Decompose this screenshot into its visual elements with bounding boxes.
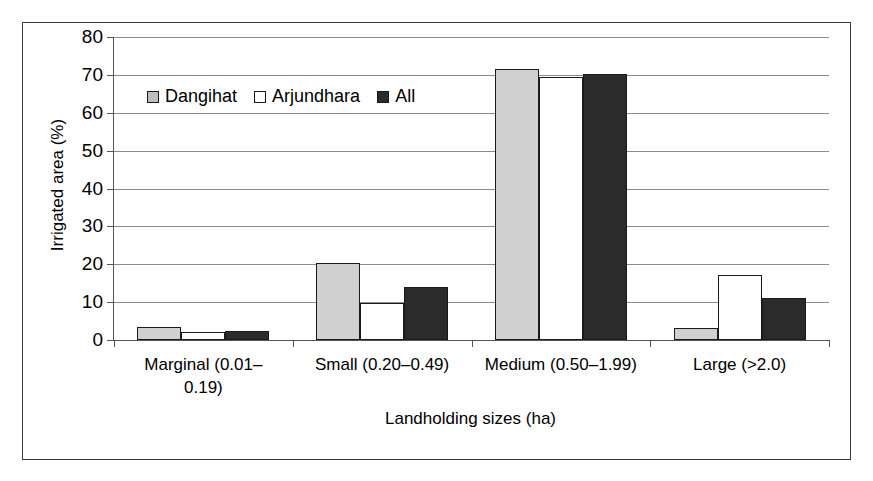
x-axis-category-label: Marginal (0.01–0.19) [114, 353, 293, 399]
bar-dangihat-1 [316, 263, 360, 340]
y-axis-tick-label: 80 [43, 27, 103, 46]
x-axis-category-label: Large (>2.0) [650, 353, 829, 376]
y-axis-tick-label: 20 [43, 254, 103, 273]
y-axis-tick [107, 302, 114, 303]
y-axis-tick-label: 30 [43, 216, 103, 235]
legend-label-all: All [395, 86, 415, 107]
gridline [114, 75, 829, 76]
y-axis-tick [107, 264, 114, 265]
y-axis-tick-label: 60 [43, 103, 103, 122]
y-axis-tick [107, 75, 114, 76]
y-axis-tick-label: 0 [43, 330, 103, 349]
x-axis-category-label: Medium (0.50–1.99) [472, 353, 651, 376]
bar-arjundhara-2 [539, 77, 583, 340]
legend-entry-all: All [377, 86, 415, 107]
gridline [114, 264, 829, 265]
chart-legend: Dangihat Arjundhara All [141, 85, 421, 108]
legend-entry-dangihat: Dangihat [147, 86, 237, 107]
gridline [114, 37, 829, 38]
y-axis-tick [107, 340, 114, 341]
bar-dangihat-0 [137, 327, 181, 340]
legend-label-arjundhara: Arjundhara [272, 86, 360, 107]
y-axis-tick [107, 226, 114, 227]
x-axis-tick [114, 340, 115, 347]
gridline [114, 189, 829, 190]
legend-label-dangihat: Dangihat [165, 86, 237, 107]
legend-swatch-icon-arjundhara [254, 91, 266, 103]
gridline [114, 226, 829, 227]
bar-arjundhara-3 [718, 275, 762, 340]
gridline [114, 113, 829, 114]
y-axis-tick [107, 189, 114, 190]
y-axis-tick-label: 70 [43, 65, 103, 84]
bar-all-2 [583, 74, 627, 340]
chart-figure: Irrigated area (%) 01020304050607080Marg… [22, 22, 851, 460]
y-axis-tick [107, 37, 114, 38]
bar-all-0 [225, 331, 269, 340]
y-axis-tick [107, 151, 114, 152]
plot-area: 01020304050607080Marginal (0.01–0.19)Sma… [113, 37, 829, 341]
bar-dangihat-2 [495, 69, 539, 340]
legend-swatch-icon-dangihat [147, 91, 159, 103]
gridline [114, 151, 829, 152]
x-axis-tick [293, 340, 294, 347]
y-axis-tick [107, 113, 114, 114]
bar-all-1 [404, 287, 448, 340]
y-axis-tick-label: 50 [43, 141, 103, 160]
x-axis-category-label: Small (0.20–0.49) [293, 353, 472, 376]
y-axis-tick-label: 10 [43, 292, 103, 311]
bar-arjundhara-1 [360, 303, 404, 340]
bar-dangihat-3 [674, 328, 718, 340]
x-axis-title: Landholding sizes (ha) [113, 409, 828, 429]
x-axis-tick [829, 340, 830, 347]
y-axis-tick-label: 40 [43, 179, 103, 198]
bar-all-3 [762, 298, 806, 340]
bar-arjundhara-0 [181, 332, 225, 340]
x-axis-tick [650, 340, 651, 347]
x-axis-tick [472, 340, 473, 347]
legend-swatch-icon-all [377, 91, 389, 103]
legend-entry-arjundhara: Arjundhara [254, 86, 360, 107]
